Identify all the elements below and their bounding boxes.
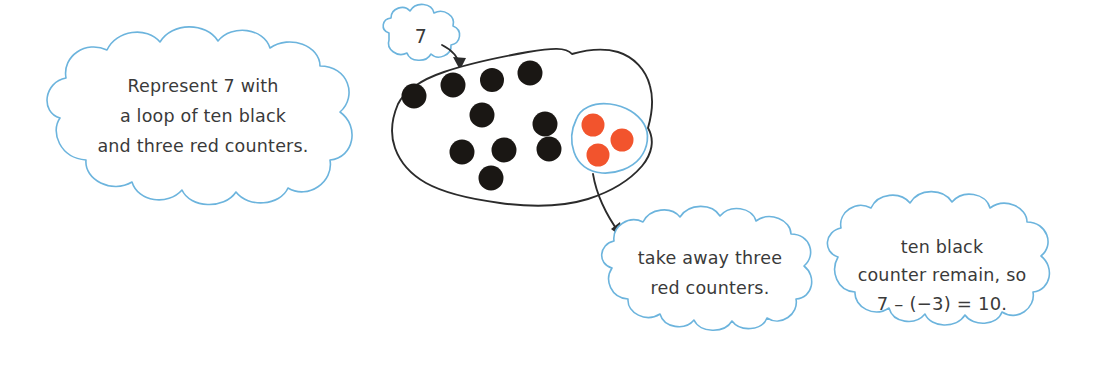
red-counter [582, 114, 605, 137]
cloud-take-away-outline [602, 206, 812, 330]
black-counter [450, 140, 475, 165]
cloud-take-away: take away three red counters. [602, 206, 812, 330]
cloud-take-away-line-2: red counters. [651, 278, 770, 298]
cloud-instruction-line-2: a loop of ten black [120, 106, 287, 126]
black-counter [480, 68, 504, 92]
black-counter [470, 103, 495, 128]
black-counter [441, 73, 466, 98]
cloud-value-7: 7 [383, 4, 459, 60]
cloud-take-away-line-1: take away three [638, 248, 782, 268]
black-counter [479, 166, 504, 191]
red-counter [611, 129, 634, 152]
counter-blob [392, 49, 652, 206]
black-counter [537, 137, 562, 162]
cloud-result-line-1: ten black [901, 237, 984, 257]
cloud-result-line-2: counter remain, so [858, 265, 1027, 285]
diagram-canvas: Represent 7 with a loop of ten black and… [0, 0, 1094, 374]
cloud-instruction: Represent 7 with a loop of ten black and… [47, 27, 352, 205]
black-counter [492, 138, 517, 163]
black-counter [402, 84, 427, 109]
black-counter [518, 61, 543, 86]
cloud-value-7-text: 7 [415, 25, 427, 47]
black-counter [533, 112, 558, 137]
red-counter [587, 144, 610, 167]
cloud-instruction-line-1: Represent 7 with [127, 76, 278, 96]
cloud-instruction-line-3: and three red counters. [97, 136, 308, 156]
cloud-result: ten black counter remain, so 7 – (−3) = … [827, 192, 1049, 325]
cloud-result-line-3: 7 – (−3) = 10. [877, 293, 1007, 314]
